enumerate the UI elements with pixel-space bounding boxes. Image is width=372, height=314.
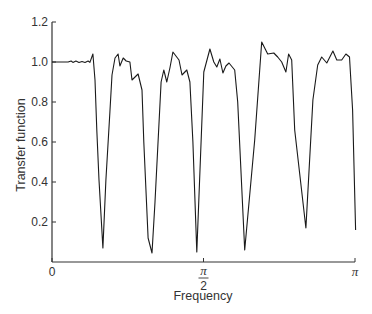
y-tick-label: 0.2 (31, 215, 48, 229)
y-axis: 0.20.40.60.81.01.2 (31, 15, 56, 262)
x-axis: 0π2π (49, 258, 359, 293)
transfer-function-chart: 0.20.40.60.81.01.2 0π2π Transfer functio… (0, 0, 372, 314)
y-tick-label: 0.8 (31, 95, 48, 109)
y-tick-label: 1.0 (31, 55, 48, 69)
x-axis-title: Frequency (173, 289, 233, 303)
y-axis-title: Transfer function (14, 98, 28, 191)
y-tick-label: 1.2 (31, 15, 48, 29)
x-tick-label: π (352, 264, 359, 279)
x-tick-label-numerator: π (200, 263, 207, 278)
x-tick-label: 0 (49, 265, 56, 279)
y-tick-label: 0.6 (31, 135, 48, 149)
transfer-function-line (52, 42, 356, 253)
y-tick-label: 0.4 (31, 175, 48, 189)
